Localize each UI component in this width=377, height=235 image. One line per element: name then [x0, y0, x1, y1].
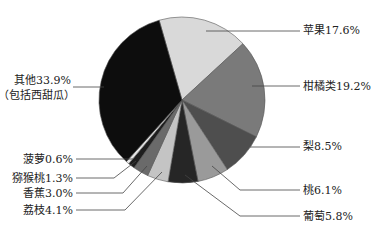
- leader-grape: [185, 175, 300, 216]
- label-citrus: 柑橘类19.2%: [303, 80, 371, 93]
- label-lychee: 荔枝4.1%: [23, 204, 73, 217]
- label-others-line2: （包括西甜瓜）: [0, 89, 75, 102]
- leader-banana: [76, 166, 147, 193]
- label-others-line1: 其他33.9%: [14, 74, 71, 87]
- leader-kiwi: [76, 161, 136, 178]
- label-kiwi: 猕猴桃1.3%: [12, 172, 73, 185]
- label-grape: 葡萄5.8%: [303, 210, 353, 223]
- label-pear: 梨8.5%: [303, 140, 342, 153]
- label-banana: 香蕉3.0%: [23, 187, 73, 200]
- label-pineapple: 菠萝0.6%: [23, 153, 73, 166]
- pie-slices: [99, 17, 265, 183]
- label-apple: 苹果17.6%: [303, 24, 360, 37]
- label-peach: 桃6.1%: [303, 184, 342, 197]
